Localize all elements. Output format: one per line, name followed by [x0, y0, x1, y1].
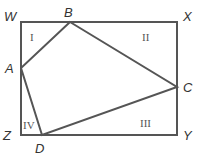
region-label-iii: III [140, 117, 151, 129]
geometry-diagram: W B X A C Z D Y I II III IV [0, 0, 199, 164]
point-label-a: A [4, 61, 14, 76]
region-label-i: I [30, 31, 34, 43]
point-label-d: D [35, 141, 44, 156]
point-label-x: X [182, 9, 193, 24]
point-label-z: Z [2, 128, 12, 143]
quadrilateral-abcd [21, 22, 177, 135]
point-label-c: C [183, 80, 193, 95]
region-label-ii: II [142, 31, 150, 43]
point-label-y: Y [183, 128, 193, 143]
point-label-w: W [4, 9, 18, 24]
point-label-b: B [64, 5, 73, 20]
region-label-iv: IV [23, 119, 35, 131]
